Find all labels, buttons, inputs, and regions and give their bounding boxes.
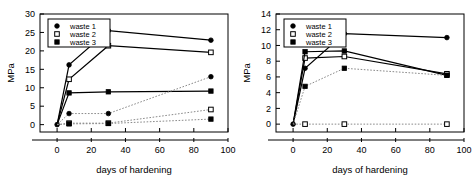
y-tick-label: 5	[30, 101, 35, 111]
data-point-marker	[55, 24, 60, 29]
y-axis-title: MPa	[241, 63, 252, 83]
x-tick-label: 80	[189, 145, 199, 155]
y-tick-label: 30	[25, 9, 35, 19]
data-point-marker	[303, 84, 307, 88]
x-tick-label: 80	[425, 145, 435, 155]
data-point-marker	[209, 89, 213, 93]
data-point-marker	[342, 54, 347, 59]
data-point-marker	[209, 50, 214, 55]
data-point-marker	[67, 77, 72, 82]
data-point-marker	[209, 38, 214, 43]
x-tick-label: 60	[155, 145, 165, 155]
data-point-marker	[291, 40, 295, 44]
data-point-marker	[291, 32, 296, 37]
y-axis: 051015202530	[25, 9, 44, 130]
x-tick-label: 20	[86, 145, 96, 155]
y-tick-label: 4	[266, 88, 271, 98]
x-tick-label: 100	[456, 145, 471, 155]
data-point-marker	[209, 107, 214, 112]
data-point-marker	[342, 122, 347, 127]
legend-label: waste 3	[69, 38, 96, 47]
data-point-marker	[303, 50, 307, 54]
data-point-marker	[55, 32, 60, 37]
x-axis-title: days of hardening	[332, 164, 408, 175]
legend: waste 1waste 2waste 3	[48, 19, 110, 47]
data-point-marker	[209, 117, 213, 121]
data-point-marker	[342, 66, 346, 70]
chart-panel-right: 02468101214020406080100MPadays of harden…	[236, 0, 472, 181]
data-point-marker	[106, 111, 111, 116]
data-point-marker	[303, 122, 308, 127]
line-chart-right: 02468101214020406080100MPadays of harden…	[236, 0, 472, 181]
two-panel-figure: 051015202530020406080100MPadays of harde…	[0, 0, 472, 181]
x-tick-label: 60	[391, 145, 401, 155]
series-line	[293, 51, 447, 124]
y-tick-label: 10	[261, 41, 271, 51]
y-tick-label: 0	[266, 119, 271, 129]
x-tick-label: 20	[322, 145, 332, 155]
y-tick-label: 8	[266, 56, 271, 66]
chart-panel-left: 051015202530020406080100MPadays of harde…	[0, 0, 236, 181]
data-point-marker	[106, 121, 110, 125]
line-chart-left: 051015202530020406080100MPadays of harde…	[0, 0, 236, 181]
x-tick-label: 100	[220, 145, 235, 155]
x-tick-label: 0	[291, 145, 296, 155]
y-tick-label: 10	[25, 83, 35, 93]
data-point-marker	[445, 73, 449, 77]
y-tick-label: 0	[30, 120, 35, 130]
series-line	[293, 68, 447, 124]
y-tick-label: 12	[261, 25, 271, 35]
series-line	[57, 77, 211, 125]
data-point-marker	[67, 63, 72, 68]
y-tick-label: 14	[261, 9, 271, 19]
x-tick-label: 40	[356, 145, 366, 155]
data-point-marker	[67, 122, 71, 126]
y-tick-label: 2	[266, 104, 271, 114]
y-tick-label: 25	[25, 28, 35, 38]
data-point-marker	[445, 35, 450, 40]
data-point-marker	[67, 111, 72, 116]
series-line	[293, 56, 447, 124]
data-point-marker	[291, 24, 296, 29]
data-point-marker	[106, 90, 110, 94]
data-point-marker	[342, 49, 346, 53]
legend-label: waste 3	[305, 38, 332, 47]
x-tick-label: 0	[55, 145, 60, 155]
y-axis-title: MPa	[5, 63, 16, 83]
y-tick-label: 6	[266, 72, 271, 82]
y-axis: 02468101214	[261, 9, 280, 129]
legend: waste 1waste 2waste 3	[284, 19, 346, 47]
x-tick-label: 40	[120, 145, 130, 155]
y-tick-label: 15	[25, 65, 35, 75]
data-point-marker	[67, 91, 71, 95]
x-axis-title: days of hardening	[96, 164, 172, 175]
data-point-marker	[445, 122, 450, 127]
y-tick-label: 20	[25, 46, 35, 56]
data-point-marker	[209, 74, 214, 79]
data-point-marker	[55, 40, 59, 44]
